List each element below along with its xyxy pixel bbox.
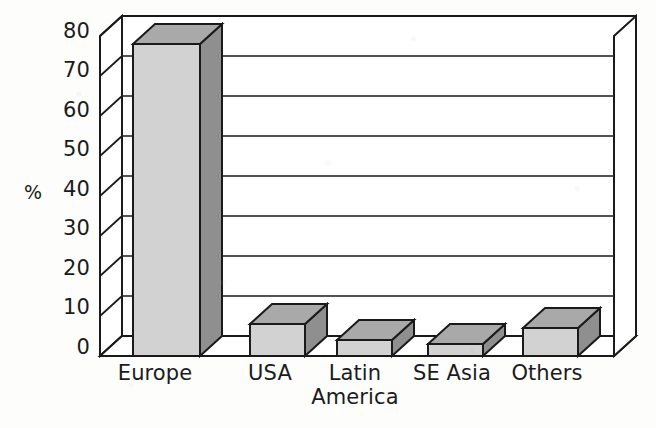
y-tick-label-70: 70 [44,58,90,82]
bar-usa-front-face [250,324,305,356]
plot-right-wall [614,16,636,356]
y-tick-label-20: 20 [44,256,90,280]
y-tick-label-40: 40 [44,177,90,201]
y-tick-label-50: 50 [44,137,90,161]
category-label-others: Others [492,362,602,386]
y-axis-title: % [24,181,42,203]
bar-europe-side-face [200,24,222,356]
category-label-latin-america: Latin America [303,362,407,409]
y-tick-label-30: 30 [44,216,90,240]
bar-others-front-face [523,328,578,356]
y-tick-label-0: 0 [44,335,90,359]
bar-latin-america-front-face [337,340,392,356]
category-label-europe: Europe [95,362,215,386]
bar-europe [133,24,222,356]
bar-chart-figure: 80 70 60 50 40 30 20 10 0 % Europe USA L… [0,0,656,428]
bar-europe-front-face [133,44,200,356]
y-tick-label-10: 10 [44,295,90,319]
y-tick-label-60: 60 [44,98,90,122]
bar-se-asia-front-face [428,344,483,356]
y-tick-label-80: 80 [44,19,90,43]
